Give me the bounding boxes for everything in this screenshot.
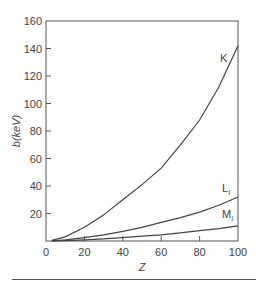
y-tick-label: 20 <box>30 208 42 220</box>
y-tick-label: 40 <box>30 180 42 192</box>
y-tick-label: 100 <box>24 98 42 110</box>
series-label-m1: MI <box>222 208 233 222</box>
series-labels: KLIMI <box>220 52 233 222</box>
chart: 20406080100120140160 020406080100 KLIMI … <box>0 0 258 289</box>
series-label-l1: LI <box>222 182 230 196</box>
x-tick-label: 20 <box>78 246 90 258</box>
series-line-k <box>52 46 238 241</box>
bottom-rule <box>12 279 256 280</box>
series-label-k: K <box>220 52 228 64</box>
y-tick-label: 140 <box>24 43 42 55</box>
data-series <box>52 46 238 241</box>
y-tick-label: 120 <box>24 70 42 82</box>
x-tick-label: 0 <box>43 246 49 258</box>
y-tick-label: 60 <box>30 153 42 165</box>
x-tick-label: 40 <box>117 246 129 258</box>
x-axis-label: Z <box>138 261 147 273</box>
x-tick-label: 100 <box>229 246 247 258</box>
series-line-l1 <box>52 197 238 241</box>
x-tick-label: 60 <box>155 246 167 258</box>
x-tick-label: 80 <box>193 246 205 258</box>
y-tick-label: 160 <box>24 15 42 27</box>
y-tick-label: 80 <box>30 125 42 137</box>
y-axis-label: b(keV) <box>10 114 22 147</box>
y-axis-ticks: 20406080100120140160 <box>24 15 51 220</box>
plot-frame <box>46 21 238 241</box>
